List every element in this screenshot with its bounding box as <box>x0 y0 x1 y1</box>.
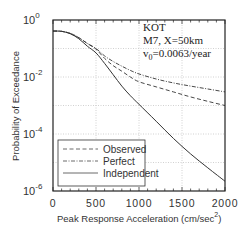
x-tick-labels: 0 500 1000 1500 2000 <box>50 197 239 209</box>
y-tick-label: 10-2 <box>23 68 43 83</box>
legend-label-observed: Observed <box>103 144 146 155</box>
legend-label-perfect: Perfect <box>103 156 135 167</box>
annotation-rate: v0=0.0063/year <box>143 47 211 62</box>
x-tick-label: 1000 <box>126 197 153 209</box>
annotation-event: M7, X=50km <box>143 34 203 46</box>
y-tick-label: 100 <box>23 11 40 26</box>
x-tick-label: 1500 <box>169 197 196 209</box>
legend-label-independent: Independent <box>103 168 159 179</box>
legend: Observed Perfect Independent <box>58 140 159 186</box>
y-tick-label: 10-4 <box>23 125 43 140</box>
y-tick-labels: 100 10-2 10-4 10-6 <box>23 11 43 197</box>
annotation: KOT M7, X=50km v0=0.0063/year <box>143 21 211 62</box>
x-tick-label: 0 <box>50 197 57 209</box>
x-tick-label: 500 <box>86 197 106 209</box>
annotation-site: KOT <box>143 21 166 33</box>
y-axis-label: Probability of Exceedance <box>10 51 21 161</box>
exceedance-chart: 100 10-2 10-4 10-6 0 500 1000 1500 2000 … <box>0 0 246 234</box>
x-tick-label: 2000 <box>212 197 239 209</box>
y-tick-label: 10-6 <box>23 182 43 197</box>
x-axis-label: Peak Response Acceleration (cm/sec2) <box>57 211 221 224</box>
